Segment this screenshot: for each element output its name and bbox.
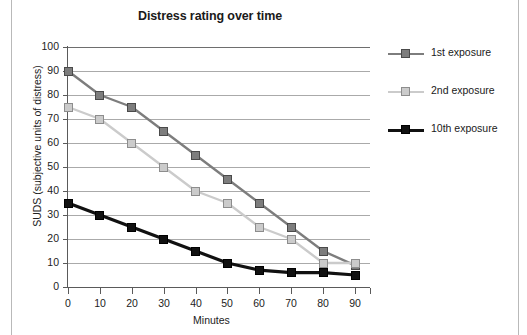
data-point-marker	[255, 223, 264, 232]
data-point-marker	[255, 199, 264, 208]
data-point-marker	[287, 223, 296, 232]
y-axis-tick	[63, 119, 68, 120]
y-axis-title: SUDS (subjective units of distress)	[31, 31, 43, 261]
gridline	[68, 143, 370, 144]
x-axis-tick-label: 30	[149, 297, 179, 309]
data-point-marker	[319, 268, 328, 277]
x-axis-title: Minutes	[68, 314, 355, 326]
data-point-marker	[191, 187, 200, 196]
y-axis-tick	[63, 239, 68, 240]
x-axis-tick	[68, 288, 69, 294]
data-point-marker	[159, 235, 168, 244]
data-point-marker	[223, 259, 232, 268]
chart-legend: 1st exposure2nd exposure10th exposure	[388, 47, 513, 161]
x-axis-tick-label: 70	[276, 297, 306, 309]
page-rule-right	[518, 0, 519, 335]
data-point-marker	[127, 223, 136, 232]
y-axis-tick	[63, 143, 68, 144]
data-point-marker	[127, 103, 136, 112]
y-axis-tick	[63, 95, 68, 96]
data-point-marker	[287, 235, 296, 244]
gridline	[68, 191, 370, 192]
data-point-marker	[223, 199, 232, 208]
data-point-marker	[351, 271, 360, 280]
data-point-marker	[95, 211, 104, 220]
legend-marker-swatch	[401, 49, 410, 58]
data-point-marker	[64, 67, 73, 76]
data-point-marker	[351, 259, 360, 268]
legend-item: 1st exposure	[388, 47, 513, 61]
legend-item: 10th exposure	[388, 123, 513, 137]
x-axis-tick-label: 80	[308, 297, 338, 309]
legend-marker-swatch	[401, 87, 410, 96]
data-point-marker	[64, 103, 73, 112]
data-point-marker	[319, 247, 328, 256]
legend-label: 1st exposure	[431, 46, 491, 58]
gridline	[68, 95, 370, 96]
page-rule-left	[11, 0, 12, 335]
legend-label: 2nd exposure	[431, 84, 495, 96]
y-axis-tick	[63, 191, 68, 192]
gridline	[68, 215, 370, 216]
gridline	[68, 119, 370, 120]
legend-label: 10th exposure	[431, 122, 498, 134]
data-point-marker	[255, 266, 264, 275]
legend-item: 2nd exposure	[388, 85, 513, 99]
legend-marker-swatch	[401, 125, 410, 134]
x-axis-tick	[323, 288, 324, 294]
x-axis-tick	[196, 288, 197, 294]
data-point-marker	[191, 247, 200, 256]
gridline	[68, 71, 370, 72]
data-point-marker	[319, 259, 328, 268]
y-axis-tick	[63, 47, 68, 48]
x-axis-tick-label: 60	[244, 297, 274, 309]
data-point-marker	[127, 139, 136, 148]
y-axis-tick-label: 0	[29, 280, 59, 292]
data-point-marker	[191, 151, 200, 160]
data-point-marker	[64, 199, 73, 208]
x-axis-line	[67, 287, 370, 288]
x-axis-tick	[355, 288, 356, 294]
gridline	[68, 47, 370, 48]
gridline	[68, 239, 370, 240]
x-axis-tick-label: 90	[340, 297, 370, 309]
x-axis-tick	[259, 288, 260, 294]
y-axis-tick	[63, 263, 68, 264]
gridline	[68, 167, 370, 168]
x-axis-tick	[370, 288, 371, 294]
data-point-marker	[159, 127, 168, 136]
x-axis-tick	[164, 288, 165, 294]
data-point-marker	[287, 268, 296, 277]
x-axis-tick	[100, 288, 101, 294]
data-point-marker	[95, 115, 104, 124]
x-axis-tick-label: 0	[53, 297, 83, 309]
chart-title: Distress rating over time	[0, 9, 420, 23]
x-axis-tick-label: 20	[117, 297, 147, 309]
data-point-marker	[223, 175, 232, 184]
data-point-marker	[159, 163, 168, 172]
data-point-marker	[95, 91, 104, 100]
y-axis-tick	[63, 215, 68, 216]
x-axis-tick-label: 10	[85, 297, 115, 309]
x-axis-tick-label: 50	[212, 297, 242, 309]
x-axis-tick	[291, 288, 292, 294]
x-axis-tick	[227, 288, 228, 294]
x-axis-tick-label: 40	[181, 297, 211, 309]
x-axis-tick	[132, 288, 133, 294]
y-axis-tick	[63, 167, 68, 168]
series-line	[68, 71, 355, 265]
chart-figure: Distress rating over time 01020304050607…	[0, 0, 527, 335]
